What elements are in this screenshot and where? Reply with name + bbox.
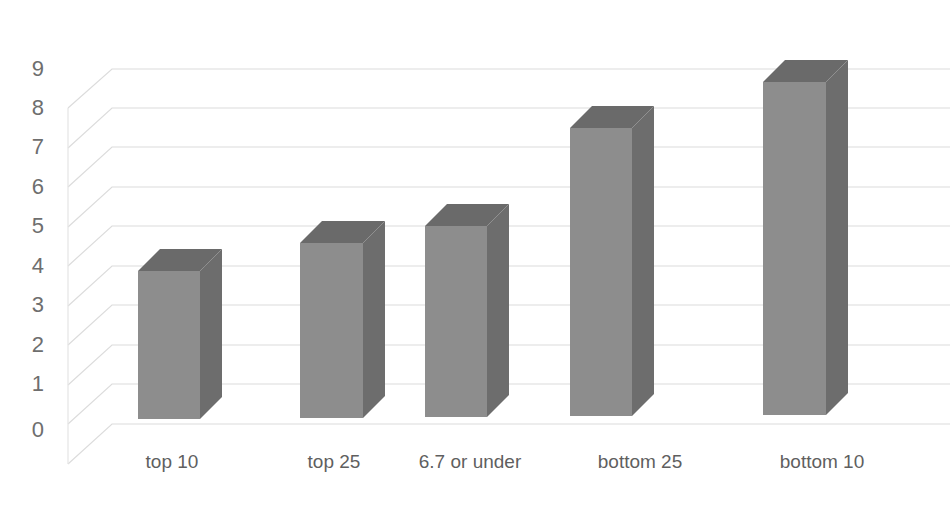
chart-page: 9 8 7 6 5 4 3 2 1 0 <box>0 0 950 505</box>
x-tick-top-25: top 25 <box>308 452 361 471</box>
x-tick-bottom-25: bottom 25 <box>598 452 683 471</box>
x-tick-top-10: top 10 <box>146 452 199 471</box>
x-tick-bottom-10: bottom 10 <box>780 452 865 471</box>
x-tick-6-7-or-under: 6.7 or under <box>419 452 521 471</box>
x-axis-ticks: top 10 top 25 6.7 or under bottom 25 bot… <box>0 0 950 505</box>
bar-chart-plot-area: 9 8 7 6 5 4 3 2 1 0 <box>0 0 950 505</box>
